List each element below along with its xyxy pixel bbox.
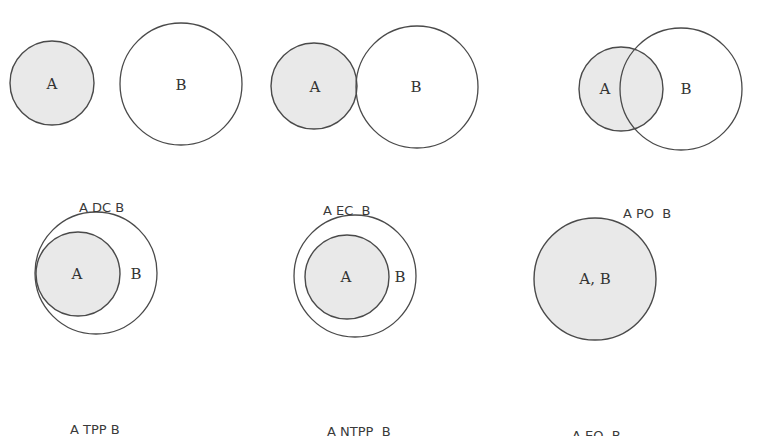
caption-line: A EC B: [323, 200, 371, 222]
panel-dc: A B: [10, 23, 242, 145]
region-a-label: A: [309, 78, 321, 96]
region-b-label: B: [394, 268, 405, 286]
region-ab-label: A, B: [578, 270, 610, 288]
caption-ntpp: A NTPP B B NTPPI A: [327, 377, 399, 436]
region-b-label: B: [680, 80, 691, 98]
region-a-circle: [579, 47, 663, 131]
caption-line: A DC B: [79, 197, 124, 219]
caption-ec: A EC B: [323, 156, 371, 244]
caption-line: A NTPP B: [327, 421, 399, 436]
region-b-label: B: [130, 265, 141, 283]
caption-dc: A DC B: [79, 153, 124, 241]
region-b-label: B: [410, 78, 421, 96]
caption-line: A TPP B: [70, 419, 128, 436]
panel-ec: A B: [271, 26, 478, 148]
caption-line: A PO B: [623, 203, 671, 225]
caption-tpp: A TPP B B TPPI A: [70, 375, 128, 436]
region-b-label: B: [175, 76, 186, 94]
region-a-label: A: [46, 75, 58, 93]
region-a-label: A: [340, 268, 352, 286]
caption-po: A PO B: [623, 159, 671, 247]
caption-line: A EQ B: [572, 425, 621, 436]
caption-eq: A EQ B: [572, 381, 621, 436]
region-a-label: A: [71, 265, 83, 283]
panel-po: A B: [579, 28, 742, 150]
region-a-label: A: [599, 80, 611, 98]
